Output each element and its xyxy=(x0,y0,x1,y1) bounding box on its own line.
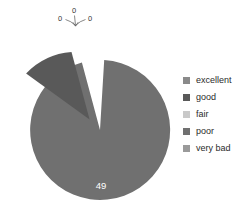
zero-label-very-bad: 0 xyxy=(88,14,92,23)
legend-item-excellent[interactable]: excellent xyxy=(183,72,248,89)
zero-label-excellent: 0 xyxy=(58,14,62,23)
pie-chart-svg: 6 49 0 0 0 xyxy=(0,0,178,213)
legend-swatch-very-bad xyxy=(183,145,190,152)
legend-label-very-bad: very bad xyxy=(196,144,231,153)
legend-label-excellent: excellent xyxy=(196,76,232,85)
legend-label-good: good xyxy=(196,93,216,102)
pie-chart-plot-area: 6 49 0 0 0 xyxy=(0,0,178,213)
legend-swatch-good xyxy=(183,94,190,101)
legend-item-poor[interactable]: poor xyxy=(183,123,248,140)
legend-item-very-bad[interactable]: very bad xyxy=(183,140,248,157)
legend-item-good[interactable]: good xyxy=(183,89,248,106)
chart-legend: excellent good fair poor very bad xyxy=(183,72,248,157)
slice-label-good: 6 xyxy=(42,35,47,46)
zero-label-fair: 0 xyxy=(72,6,76,15)
legend-swatch-poor xyxy=(183,128,190,135)
pie-chart-screenshot: 6 49 0 0 0 excellent good fair po xyxy=(0,0,248,213)
slice-label-poor: 49 xyxy=(96,180,107,191)
legend-label-fair: fair xyxy=(196,110,209,119)
legend-swatch-fair xyxy=(183,111,190,118)
legend-item-fair[interactable]: fair xyxy=(183,106,248,123)
legend-swatch-excellent xyxy=(183,77,190,84)
legend-label-poor: poor xyxy=(196,127,214,136)
leader-line-fair xyxy=(75,16,76,26)
